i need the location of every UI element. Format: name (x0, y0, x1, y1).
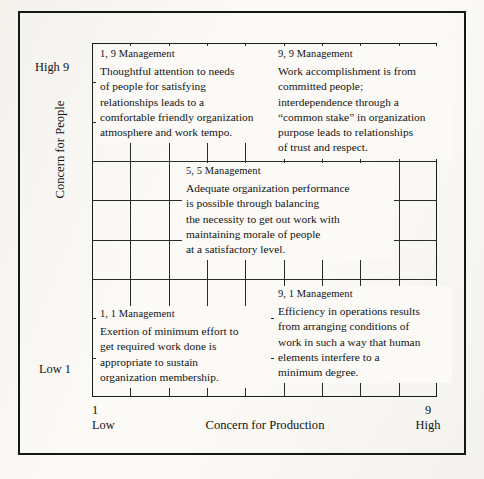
style-body-5-5: Adequate organization performanceis poss… (186, 181, 391, 257)
scanned-page: 1, 9 Management Thoughtful attention to … (0, 0, 484, 479)
text-line: get required work done is (100, 339, 268, 354)
text-line: of trust and respect. (278, 140, 451, 155)
text-line: the necessity to get out work with (186, 212, 391, 227)
text-line: is possible through balancing (186, 196, 391, 211)
x-axis-high-label: 9 High (408, 403, 448, 433)
style-title-1-1: 1, 1 Management (100, 308, 268, 319)
style-title-1-9: 1, 9 Management (100, 48, 286, 59)
x-axis-low-label: 1 Low (88, 403, 132, 433)
y-axis-title: Concern for People (53, 70, 68, 230)
text-line: Adequate organization performance (186, 181, 391, 196)
y-axis-high-label: High 9 (35, 60, 69, 75)
style-body-9-9: Work accomplishment is fromcommitted peo… (278, 64, 451, 156)
text-line: Exertion of minimum effort to (100, 324, 268, 339)
style-block-9-9[interactable]: 9, 9 Management Work accomplishment is f… (274, 46, 454, 159)
text-line: comfortable friendly organization (100, 110, 286, 125)
text-line: purpose leads to relationships (278, 125, 451, 140)
text-line: relationships leads to a (100, 95, 286, 110)
x-axis-high-word: High (408, 418, 448, 433)
text-line: of people for satisfying (100, 79, 286, 94)
text-line: at a satisfactory level. (186, 242, 391, 257)
style-title-9-9: 9, 9 Management (278, 48, 451, 59)
text-line: elements interfere to a (278, 350, 449, 365)
style-title-9-1: 9, 1 Management (278, 288, 449, 299)
text-line: minimum degree. (278, 365, 449, 380)
style-body-1-9: Thoughtful attention to needsof people f… (100, 64, 286, 140)
text-line: Efficiency in operations results (278, 304, 449, 319)
managerial-grid: 1, 9 Management Thoughtful attention to … (92, 43, 437, 397)
text-line: from arranging conditions of (278, 319, 449, 334)
text-line: appropriate to sustain (100, 355, 268, 370)
text-line: Work accomplishment is from (278, 64, 451, 79)
x-axis-title: Concern for Production (150, 418, 380, 433)
text-line: interdependence through a (278, 95, 451, 110)
text-line: organization membership. (100, 370, 268, 385)
text-line: maintaining morale of people (186, 227, 391, 242)
x-axis-low-word: Low (92, 418, 132, 433)
style-block-1-1[interactable]: 1, 1 Management Exertion of minimum effo… (96, 306, 271, 388)
style-title-5-5: 5, 5 Management (186, 165, 391, 176)
gridline-horizontal (92, 279, 437, 280)
text-line: work in such a way that human (278, 335, 449, 350)
style-block-9-1[interactable]: 9, 1 Management Efficiency in operations… (274, 286, 452, 383)
style-body-9-1: Efficiency in operations resultsfrom arr… (278, 304, 449, 380)
y-axis-low-label: Low 1 (39, 362, 71, 377)
style-body-1-1: Exertion of minimum effort toget require… (100, 324, 268, 385)
style-block-1-9[interactable]: 1, 9 Management Thoughtful attention to … (96, 46, 289, 143)
text-line: Thoughtful attention to needs (100, 64, 286, 79)
style-block-5-5[interactable]: 5, 5 Management Adequate organization pe… (182, 163, 394, 260)
gridline-horizontal (92, 161, 437, 162)
x-axis-low-value: 1 (92, 403, 132, 418)
text-line: “common stake” in organization (278, 110, 451, 125)
x-axis-high-value: 9 (408, 403, 448, 418)
text-line: committed people; (278, 79, 451, 94)
text-line: atmosphere and work tempo. (100, 125, 286, 140)
